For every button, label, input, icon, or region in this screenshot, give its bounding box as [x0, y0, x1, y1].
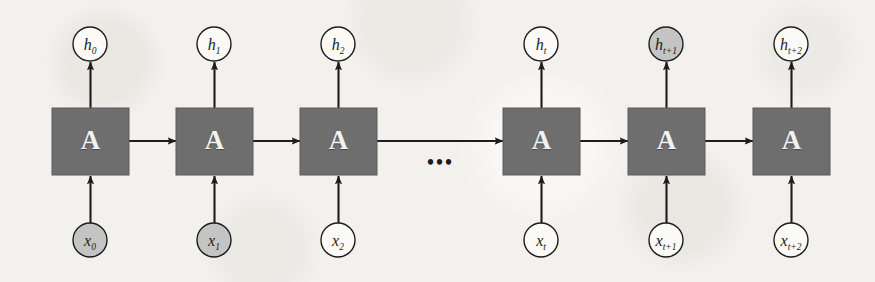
output-state-node-label-3: ht [524, 37, 558, 57]
input-node-label-3: xt [524, 233, 558, 253]
rnn-unrolled-figure: AAAAAAh0h1h2htht+1ht+2x0x1x2xtxt+1xt+2 •… [0, 0, 875, 282]
rnn-cell-label-0: A [52, 127, 129, 154]
input-node-label-5: xt+2 [774, 233, 808, 253]
output-state-node-label-4: ht+1 [649, 37, 683, 57]
input-node-label-0: x0 [73, 233, 107, 253]
input-node-label-1: x1 [197, 233, 231, 253]
output-state-node-label-0: h0 [73, 37, 107, 57]
rnn-cell-label-3: A [503, 127, 580, 154]
ellipsis-marker: ••• [427, 152, 454, 172]
rnn-cell-label-2: A [300, 127, 377, 154]
output-state-node-label-1: h1 [197, 37, 231, 57]
input-node-label-4: xt+1 [649, 233, 683, 253]
input-node-label-2: x2 [321, 233, 355, 253]
rnn-cell-label-5: A [753, 127, 830, 154]
output-state-node-label-2: h2 [321, 37, 355, 57]
rnn-cell-label-4: A [628, 127, 705, 154]
diagram-canvas [0, 0, 875, 282]
rnn-cell-label-1: A [176, 127, 253, 154]
output-state-node-label-5: ht+2 [774, 37, 808, 57]
